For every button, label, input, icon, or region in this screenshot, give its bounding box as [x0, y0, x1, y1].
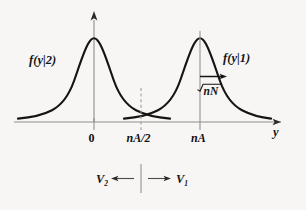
tick-label-origin: 0 [89, 131, 95, 145]
tick-label-threshold: nA/2 [127, 131, 151, 145]
v1-label-subscript: 1 [184, 179, 188, 188]
v1-label: V1 [176, 172, 188, 188]
left-curve-label: f(y|2) [29, 53, 56, 67]
right-curve-label: f(y|1) [223, 51, 250, 65]
tick-label-signal-mean: nA [191, 131, 206, 145]
y-axis-arrowhead [91, 11, 98, 21]
figure-container: nN f(y|2) f(y|1) 0 nA/2 nA y V2 V1 [0, 0, 306, 210]
v2-label-subscript: 2 [103, 179, 108, 188]
gaussian-decision-figure: nN f(y|2) f(y|1) 0 nA/2 nA y V2 V1 [0, 0, 306, 210]
y-axis-group [91, 11, 98, 122]
decision-region-group: V2 V1 [96, 164, 188, 193]
sigma-label: nN [204, 85, 219, 97]
x-axis-label: y [271, 125, 279, 139]
x-axis-group [14, 119, 281, 125]
v2-label: V2 [96, 172, 108, 188]
